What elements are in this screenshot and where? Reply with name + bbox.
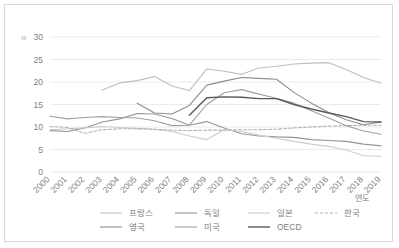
line-chart-svg: 051015202530 % 2000200120022003200420052… [5, 5, 394, 243]
y-axis-tick-label: 10 [34, 122, 44, 132]
y-axis-unit-label: % [21, 35, 27, 41]
legend-label: 일본 [277, 208, 293, 218]
legend-label: OECD [277, 222, 302, 232]
x-axis-tick-label: 2008 [170, 174, 191, 195]
gridlines-group [50, 37, 381, 172]
series-lines-group [50, 63, 381, 157]
series-line-5 [50, 90, 381, 135]
series-line-0 [102, 63, 381, 91]
x-axis-tick-label: 2007 [153, 174, 174, 195]
x-axis-tick-label: 2010 [205, 174, 226, 195]
x-axis-tick-label: 2001 [48, 174, 69, 195]
x-axis-tick-label: 2016 [310, 174, 331, 195]
legend-label: 독일 [204, 208, 220, 218]
y-axis-tick-label: 20 [34, 77, 44, 87]
x-axis-tick-label: 2017 [327, 174, 348, 195]
x-axis-tick-label: 2006 [135, 174, 156, 195]
y-axis-tick-label: 30 [34, 32, 44, 42]
x-axis-tick-label: 2012 [240, 174, 261, 195]
x-axis-tick-label: 2013 [257, 174, 278, 195]
x-axis-tick-label: 2015 [292, 174, 313, 195]
x-axis-tick-label: 2003 [83, 174, 104, 195]
chart-plot-area: 051015202530 % 2000200120022003200420052… [5, 5, 394, 243]
y-axis-tick-label: 15 [34, 100, 44, 110]
x-axis-title: 연도 [355, 194, 369, 203]
x-axis-tick-labels: 2000200120022003200420052006200720082009… [31, 174, 383, 195]
x-axis-tick-label: 2019 [362, 174, 383, 195]
x-axis-tick-label: 2000 [31, 174, 52, 195]
chart-container: 051015202530 % 2000200120022003200420052… [4, 4, 393, 242]
legend-label: 프랑스 [129, 208, 153, 218]
x-axis-tick-label: 2011 [223, 174, 243, 194]
series-line-4 [137, 78, 381, 125]
legend-label: 영국 [129, 222, 145, 232]
y-axis-tick-label: 25 [34, 55, 44, 65]
y-axis-tick-labels: 051015202530 [34, 32, 44, 177]
x-axis-tick-label: 2014 [275, 174, 296, 195]
legend-label: 한국 [344, 208, 360, 218]
x-axis-tick-label: 2004 [101, 174, 122, 195]
x-axis-tick-label: 2005 [118, 174, 139, 195]
x-axis-tick-label: 2018 [345, 174, 366, 195]
chart-legend: 프랑스독일일본한국영국미국OECD [100, 208, 360, 232]
y-axis-tick-label: 5 [38, 145, 43, 155]
legend-label: 미국 [204, 222, 220, 232]
x-axis-tick-label: 2002 [66, 174, 87, 195]
x-axis-tick-label: 2009 [188, 174, 209, 195]
series-line-2 [50, 127, 381, 157]
